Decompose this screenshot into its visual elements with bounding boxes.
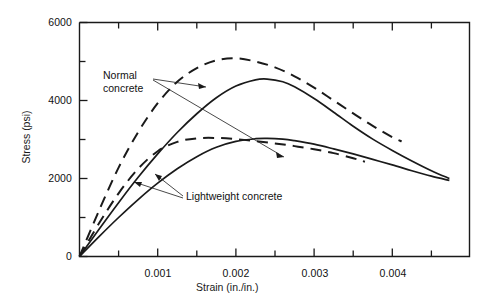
y-tick-label-6000: 6000 — [42, 16, 72, 28]
arrowhead-normal-upper — [198, 83, 206, 89]
annotation-arrowheads — [134, 83, 284, 187]
curve-series-1 — [80, 79, 450, 257]
y-tick-label-0: 0 — [42, 250, 72, 262]
x-tick-label-0004: 0.004 — [365, 267, 421, 279]
x-tick-label-0003: 0.003 — [287, 267, 343, 279]
y-tick-label-4000: 4000 — [42, 94, 72, 106]
annotation-lightweight-concrete: Lightweight concrete — [186, 190, 282, 203]
arrowhead-light-lower — [134, 182, 142, 187]
chart-canvas — [0, 0, 491, 304]
x-tick-label-0002: 0.002 — [208, 267, 264, 279]
arrowhead-normal-lower — [276, 152, 284, 158]
annotation-normal-concrete: Normal concrete — [103, 69, 143, 94]
x-tick-label-0001: 0.001 — [130, 267, 186, 279]
y-axis-title: Stress (psi) — [20, 102, 32, 172]
plot-frame — [80, 23, 470, 257]
y-tick-label-2000: 2000 — [42, 172, 72, 184]
y-axis-ticks — [80, 23, 88, 257]
leader-normal-lower — [153, 80, 284, 157]
stress-strain-chart: 0 2000 4000 6000 0.001 0.002 0.003 0.004… — [0, 0, 491, 304]
x-axis-ticks — [119, 23, 432, 257]
x-axis-title: Strain (in./in.) — [196, 281, 258, 293]
